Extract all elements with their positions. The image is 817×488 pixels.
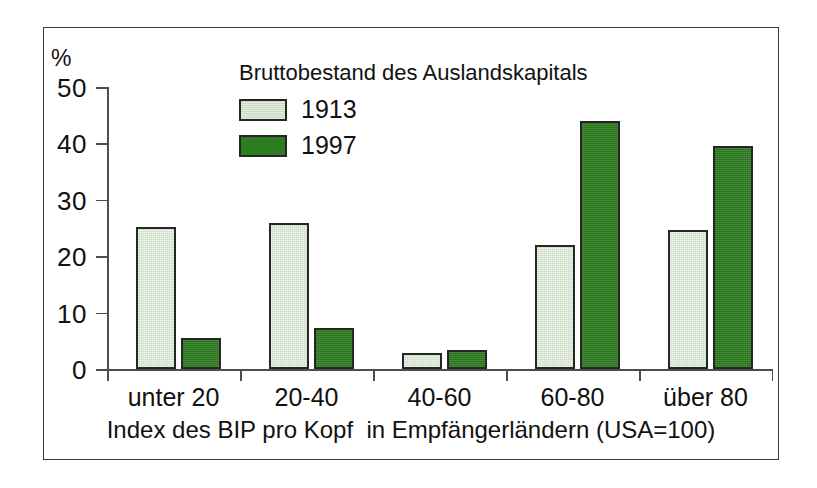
- y-axis-tick: 50: [96, 87, 107, 89]
- bar-1913-60-80[interactable]: [535, 245, 575, 369]
- x-axis-tick: [639, 369, 641, 381]
- x-axis-title: Index des BIP pro Kopf in Empfängerlände…: [44, 416, 778, 444]
- y-axis-unit-label: %: [51, 45, 71, 72]
- bar-1913-unter-20[interactable]: [136, 227, 176, 369]
- legend-label-1997: 1997: [301, 131, 357, 160]
- legend-title: Bruttobestand des Auslandskapitals: [239, 60, 588, 86]
- y-axis-tick: 40: [96, 143, 107, 145]
- chart-frame: % 50 40 30 20 10 0 u: [43, 27, 779, 460]
- legend-item-1913[interactable]: 1913: [239, 95, 588, 124]
- legend-label-1913: 1913: [301, 95, 357, 124]
- legend-item-1997[interactable]: 1997: [239, 131, 588, 160]
- y-axis-tick: 10: [96, 313, 107, 315]
- legend-swatch-icon-1997: [239, 135, 287, 157]
- y-axis-tick-label: 30: [57, 186, 87, 217]
- x-axis-category-label: über 80: [663, 383, 748, 412]
- y-axis-tick-label: 10: [57, 299, 87, 330]
- x-axis-tick: [373, 369, 375, 381]
- y-axis-tick-label: 0: [72, 355, 87, 386]
- bar-1913-40-60[interactable]: [402, 353, 442, 369]
- bar-1997-unter-20[interactable]: [181, 338, 221, 369]
- x-axis-category-label: 40-60: [408, 383, 472, 412]
- x-axis-tick: [240, 369, 242, 381]
- bar-1913-20-40[interactable]: [269, 223, 309, 369]
- y-axis-tick: 0: [96, 369, 107, 371]
- bar-group: unter 20: [107, 87, 240, 369]
- bar-group: über 80: [639, 87, 772, 369]
- legend-swatch-icon-1913: [239, 99, 287, 121]
- y-axis-tick: 30: [96, 200, 107, 202]
- bar-1997-ueber-80[interactable]: [713, 146, 753, 369]
- y-axis-tick: 20: [96, 256, 107, 258]
- bar-1997-20-40[interactable]: [314, 328, 354, 369]
- x-axis-category-label: 20-40: [275, 383, 339, 412]
- y-axis-tick-label: 40: [57, 129, 87, 160]
- x-axis-category-label: 60-80: [541, 383, 605, 412]
- x-axis-tick: [506, 369, 508, 381]
- y-axis-tick-label: 20: [57, 242, 87, 273]
- y-axis-tick-label: 50: [57, 73, 87, 104]
- chart-legend: Bruttobestand des Auslandskapitals 1913 …: [239, 60, 588, 167]
- bar-1997-40-60[interactable]: [447, 350, 487, 369]
- x-axis-line: [107, 369, 773, 371]
- x-axis-category-label: unter 20: [128, 383, 220, 412]
- x-axis-tick: [107, 369, 109, 381]
- x-axis-tick: [772, 369, 774, 381]
- bar-1913-ueber-80[interactable]: [668, 230, 708, 369]
